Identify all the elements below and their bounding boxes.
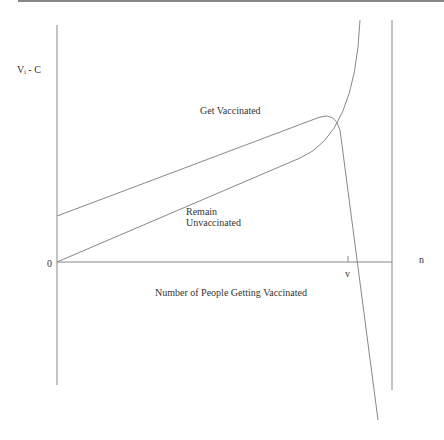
y-axis-label: Vᵢ - C (17, 64, 41, 76)
unvaccinated-label: Unvaccinated (186, 217, 241, 229)
x-axis-title: Number of People Getting Vaccinated (155, 287, 307, 299)
x-axis-end-label: n (419, 254, 424, 266)
tick-label-v: v (345, 268, 350, 280)
get-vaccinated-label: Get Vaccinated (200, 105, 261, 117)
get-vaccinated-curve (57, 116, 378, 420)
origin-label: 0 (47, 258, 52, 270)
